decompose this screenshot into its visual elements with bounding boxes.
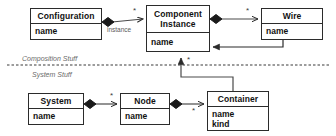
attribute-item: name: [125, 111, 169, 121]
attribute-item: name: [33, 111, 83, 121]
region-label-system-stuff: System Stuff: [32, 71, 72, 79]
class-name-line-1: Component: [148, 9, 208, 19]
class-name-wire: Wire: [262, 9, 322, 24]
composition-diamond-node: [170, 100, 182, 109]
edge-node-container: [170, 100, 204, 109]
class-name-system: System: [29, 94, 83, 109]
multiplicity-system-node: *: [110, 92, 113, 100]
class-box-wire[interactable]: Wire name: [261, 8, 323, 40]
attribute-item: name: [35, 26, 101, 36]
edge-label-instance: instance: [107, 26, 131, 33]
class-box-configuration[interactable]: Configuration name: [30, 8, 102, 40]
uml-class-diagram: Configuration name Component Instance na…: [0, 0, 336, 136]
class-attributes-system: name: [29, 109, 83, 123]
class-box-container[interactable]: Container name kind: [207, 91, 269, 131]
class-name-container: Container: [208, 92, 268, 107]
class-name-configuration: Configuration: [31, 9, 101, 24]
region-label-composition-stuff: Composition Stuff: [22, 55, 77, 63]
multiplicity-component-instance-wire: *: [246, 7, 249, 15]
multiplicity-node-container: *: [192, 107, 195, 115]
composition-diamond-component-instance: [210, 15, 222, 24]
multiplicity-configuration-component-instance: *: [133, 7, 136, 15]
attribute-item: name: [266, 26, 322, 36]
composition-diamond-system: [84, 100, 96, 109]
attribute-item: kind: [212, 119, 268, 129]
class-name-line-2: Instance: [148, 19, 208, 29]
class-name-node: Node: [121, 94, 169, 109]
attribute-item: name: [212, 109, 268, 119]
class-box-component-instance[interactable]: Component Instance name: [146, 5, 210, 52]
edge-system-node: [84, 100, 117, 109]
class-attributes-wire: name: [262, 24, 322, 38]
class-attributes-configuration: name: [31, 24, 101, 38]
edge-wire-component-instance: [213, 40, 283, 47]
class-box-system[interactable]: System name: [28, 93, 84, 125]
multiplicity-container-component-instance: *: [187, 56, 190, 64]
attribute-item: name: [151, 37, 209, 47]
class-attributes-container: name kind: [208, 107, 268, 131]
class-attributes-node: name: [121, 109, 169, 123]
edge-component-instance-wire: [210, 15, 258, 24]
class-box-node[interactable]: Node name: [120, 93, 170, 125]
class-name-component-instance: Component Instance: [147, 6, 209, 33]
class-attributes-component-instance: name: [147, 33, 209, 49]
